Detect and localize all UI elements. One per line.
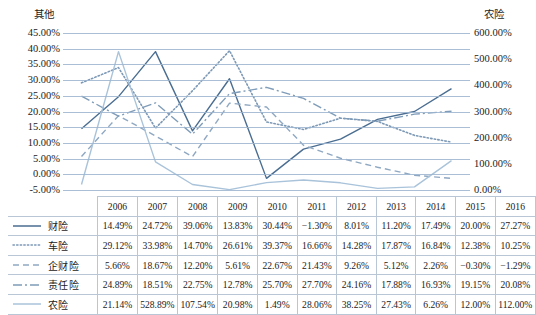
gridline	[63, 127, 470, 128]
table-cell: 17.88%	[376, 275, 416, 295]
table-row: 车险29.12%33.98%14.70%26.61%39.37%16.66%14…	[8, 236, 536, 256]
table-cell: 18.51%	[137, 275, 177, 295]
table-cell: 24.16%	[337, 275, 377, 295]
table-column-header-2007: 2007	[137, 197, 177, 217]
table-column-header-2014: 2014	[416, 197, 456, 217]
legend-swatch-solid-icon	[12, 299, 42, 309]
left-axis-tick-label: 0.00%	[4, 169, 60, 179]
table-cell: 10.25%	[495, 236, 535, 256]
table-cell: 12.00%	[456, 294, 496, 314]
legend-swatch-dotted-icon	[12, 240, 42, 250]
table-cell: 20.08%	[495, 275, 535, 295]
table-cell: 11.20%	[376, 216, 416, 236]
table-cell: 20.98%	[218, 294, 258, 314]
table-cell: 39.06%	[178, 216, 218, 236]
plot-area	[63, 33, 470, 190]
table-cell: 25.70%	[257, 275, 297, 295]
table-row: 责任险24.89%18.51%22.75%12.78%25.70%27.70%2…	[8, 275, 536, 295]
gridline	[63, 112, 470, 113]
table-row: 企财险5.66%18.67%12.20%5.61%22.67%21.43%9.2…	[8, 255, 536, 275]
table-cell: 528.89%	[137, 294, 177, 314]
table-cell: 1.49%	[257, 294, 297, 314]
table-cell: −1.29%	[495, 255, 535, 275]
table-cell: 39.37%	[257, 236, 297, 256]
gridline	[63, 64, 470, 65]
legend-label-车险: 车险	[48, 238, 69, 253]
table-cell: 28.06%	[297, 294, 337, 314]
legend-label-责任险: 责任险	[48, 277, 79, 292]
right-axis-tick-label: 200.00%	[474, 133, 512, 143]
legend-cell-财险: 财险	[8, 216, 98, 236]
gridline	[63, 49, 470, 50]
legend-label-财险: 财险	[48, 218, 69, 233]
legend-label-农险: 农险	[48, 297, 69, 312]
gridline	[63, 143, 470, 144]
left-axis-tick-label: 15.00%	[4, 122, 60, 132]
table-cell: 14.70%	[178, 236, 218, 256]
table-row: 农险21.14%528.89%107.54%20.98%1.49%28.06%3…	[8, 294, 536, 314]
legend-cell-企财险: 企财险	[8, 255, 98, 275]
table-cell: 24.72%	[137, 216, 177, 236]
table-cell: 27.27%	[495, 216, 535, 236]
left-axis-title: 其他	[34, 6, 54, 21]
left-axis-tick-label: -5.00%	[4, 185, 60, 195]
left-axis-tick-label: 30.00%	[4, 75, 60, 85]
left-axis-tick-label: 25.00%	[4, 91, 60, 101]
table-column-header-2009: 2009	[218, 197, 258, 217]
gridline	[63, 33, 470, 34]
right-axis-tick-label: 100.00%	[474, 159, 512, 169]
left-axis-tick-label: 45.00%	[4, 28, 60, 38]
table-cell: 24.89%	[98, 275, 138, 295]
table-cell: 26.61%	[218, 236, 258, 256]
series-line-农险	[82, 52, 452, 190]
table-column-header-2010: 2010	[257, 197, 297, 217]
table-cell: 21.14%	[98, 294, 138, 314]
left-axis-tick-label: 20.00%	[4, 107, 60, 117]
table-cell: 19.15%	[456, 275, 496, 295]
table-header-row: 2006200720082009201020112012201320142015…	[8, 197, 536, 217]
left-axis-tick-label: 10.00%	[4, 138, 60, 148]
legend-label-企财险: 企财险	[48, 258, 79, 273]
right-axis-tick-label: 0.00%	[474, 185, 501, 195]
table-cell: 5.61%	[218, 255, 258, 275]
table-cell: 18.67%	[137, 255, 177, 275]
table-column-header-2016: 2016	[495, 197, 535, 217]
table-cell: −0.30%	[456, 255, 496, 275]
table-cell: 27.43%	[376, 294, 416, 314]
gridline	[63, 174, 470, 175]
table-cell: 27.70%	[297, 275, 337, 295]
legend-swatch-solid-icon	[12, 221, 42, 231]
table-cell: 12.20%	[178, 255, 218, 275]
table-cell: 20.00%	[456, 216, 496, 236]
table-cell: 17.49%	[416, 216, 456, 236]
table-cell: 17.87%	[376, 236, 416, 256]
table-cell: 12.38%	[456, 236, 496, 256]
table-cell: 2.26%	[416, 255, 456, 275]
legend-swatch-dashdot-icon	[12, 280, 42, 290]
table-cell: 38.25%	[337, 294, 377, 314]
left-axis-tick-label: 5.00%	[4, 154, 60, 164]
table-row: 财险14.49%24.72%39.06%13.83%30.44%−1.30%8.…	[8, 216, 536, 236]
table-cell: 14.28%	[337, 236, 377, 256]
table-cell: 5.66%	[98, 255, 138, 275]
gridline	[63, 159, 470, 160]
right-axis-title: 农险	[484, 6, 504, 21]
table-cell: 16.84%	[416, 236, 456, 256]
table-corner-cell	[8, 197, 98, 217]
legend-cell-农险: 农险	[8, 294, 98, 314]
table-cell: 112.00%	[495, 294, 535, 314]
data-table: 2006200720082009201020112012201320142015…	[8, 196, 536, 315]
left-axis-tick-label: 40.00%	[4, 44, 60, 54]
series-line-企财险	[82, 103, 452, 178]
table-cell: 12.78%	[218, 275, 258, 295]
table-cell: 22.67%	[257, 255, 297, 275]
table-column-header-2006: 2006	[98, 197, 138, 217]
table-cell: 16.66%	[297, 236, 337, 256]
table-cell: 16.93%	[416, 275, 456, 295]
table-cell: 6.26%	[416, 294, 456, 314]
gridline	[63, 190, 470, 191]
legend-cell-责任险: 责任险	[8, 275, 98, 295]
table-cell: −1.30%	[297, 216, 337, 236]
right-axis-tick-label: 500.00%	[474, 54, 512, 64]
